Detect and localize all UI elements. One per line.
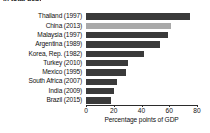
y-axis-tick-label: Thailand (1997)	[0, 12, 84, 21]
bar	[86, 69, 126, 75]
bar-row	[86, 96, 197, 105]
y-axis-tick-label: Korea, Rep. (1982)	[0, 49, 84, 58]
bar	[86, 41, 160, 47]
x-axis-tick-label: 80	[193, 108, 200, 115]
bar	[86, 32, 168, 38]
bar-row	[86, 21, 197, 30]
x-axis-tick-label: 40	[138, 108, 145, 115]
bar	[86, 60, 128, 66]
y-axis-category-labels: Thailand (1997)China (2013)Malaysia (199…	[0, 12, 84, 105]
bar	[86, 79, 117, 85]
bar-row	[86, 86, 197, 95]
y-axis-tick-label: India (2009)	[0, 86, 84, 95]
chart-title: in total debt	[3, 0, 41, 2]
plot-area	[86, 12, 197, 105]
y-axis-tick-label: Mexico (1995)	[0, 68, 84, 77]
bar-row	[86, 40, 197, 49]
bar-row	[86, 49, 197, 58]
bar-row	[86, 77, 197, 86]
y-axis-tick-label: Brazil (2015)	[0, 96, 84, 105]
y-axis-tick-label: Turkey (2010)	[0, 58, 84, 67]
bar-series	[86, 12, 197, 105]
y-axis-tick-label: Argentina (1989)	[0, 40, 84, 49]
x-axis-tick-label: 60	[166, 108, 173, 115]
bar	[86, 23, 171, 29]
bar-row	[86, 31, 197, 40]
bar-row	[86, 68, 197, 77]
bar	[86, 13, 190, 19]
bar-row	[86, 58, 197, 67]
bar	[86, 51, 144, 57]
y-axis-tick-label: South Africa (2007)	[0, 77, 84, 86]
x-axis-tick-label: 0	[84, 108, 88, 115]
bar	[86, 97, 111, 103]
y-axis-tick-label: China (2013)	[0, 21, 84, 30]
bar-chart-figure: in total debt Thailand (1997)China (2013…	[0, 0, 210, 133]
x-axis-label: Percentage points of GDP	[86, 117, 197, 124]
x-axis-tick-label: 20	[110, 108, 117, 115]
bar	[86, 88, 114, 94]
bar-row	[86, 12, 197, 21]
y-axis-tick-label: Malaysia (1997)	[0, 31, 84, 40]
